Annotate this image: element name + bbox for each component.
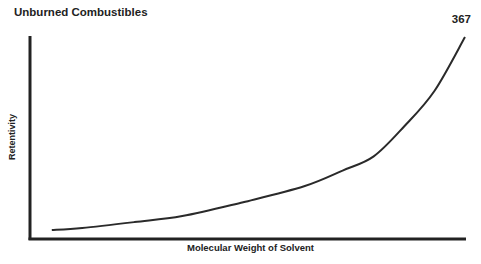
y-axis-label: Retentivity	[7, 107, 17, 167]
data-curve	[52, 37, 465, 230]
chart-plot-area	[0, 0, 481, 264]
x-axis-label: Molecular Weight of Solvent	[0, 242, 481, 253]
